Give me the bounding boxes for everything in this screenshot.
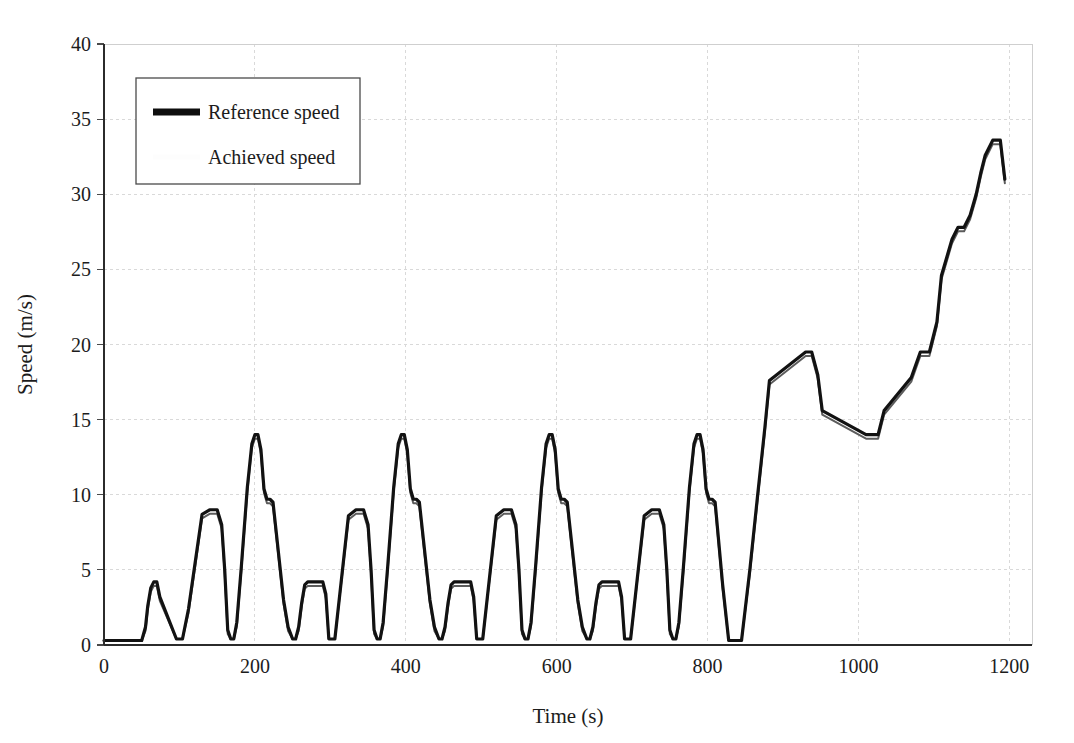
y-tick-label: 10 bbox=[71, 484, 91, 506]
speed-vs-time-line-chart: 020040060080010001200 0510152025303540 T… bbox=[0, 0, 1074, 743]
y-tick-label: 20 bbox=[71, 334, 91, 356]
x-tick-label: 200 bbox=[240, 655, 270, 677]
y-axis-title: Speed (m/s) bbox=[13, 294, 37, 395]
x-tick-label: 1000 bbox=[838, 655, 878, 677]
y-tick-label: 35 bbox=[71, 108, 91, 130]
chart-legend: Reference speed Achieved speed bbox=[136, 78, 360, 184]
x-tick-label: 800 bbox=[693, 655, 723, 677]
x-tick-label: 600 bbox=[542, 655, 572, 677]
y-tick-label: 25 bbox=[71, 258, 91, 280]
chart-figure: 020040060080010001200 0510152025303540 T… bbox=[0, 0, 1074, 743]
y-tick-label: 0 bbox=[81, 634, 91, 656]
legend-box bbox=[136, 78, 360, 184]
y-tick-label: 5 bbox=[81, 559, 91, 581]
y-tick-label: 30 bbox=[71, 183, 91, 205]
legend-label-reference-speed: Reference speed bbox=[208, 101, 340, 124]
x-tick-label: 1200 bbox=[989, 655, 1029, 677]
x-axis-title: Time (s) bbox=[533, 704, 604, 728]
x-tick-label: 0 bbox=[99, 655, 109, 677]
legend-label-achieved-speed: Achieved speed bbox=[208, 146, 335, 169]
y-tick-label: 40 bbox=[71, 33, 91, 55]
y-tick-label: 15 bbox=[71, 409, 91, 431]
x-tick-label: 400 bbox=[391, 655, 421, 677]
